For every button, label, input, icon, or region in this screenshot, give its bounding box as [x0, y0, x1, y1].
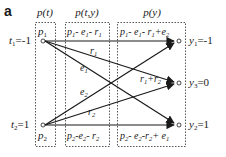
header-p-t: p(t) [36, 6, 53, 19]
edge-label-r2: r2 [88, 106, 96, 118]
panel-label: a [4, 3, 12, 19]
edge-label-e2: e2 [80, 86, 88, 98]
node-y3 [177, 81, 181, 85]
marginal-top: p1- e1- r1+e2 [119, 26, 170, 38]
node-t1 [41, 39, 45, 43]
p1-label: p1 [37, 25, 48, 39]
marginal-bottom: p2- e2-r2+ e1 [119, 130, 169, 142]
label-y2: y2=1 [188, 118, 209, 132]
label-y1: y1=-1 [188, 34, 213, 48]
edge-t2-y1 [45, 43, 174, 125]
node-t2 [41, 123, 45, 127]
node-y2 [177, 123, 181, 127]
header-p-ty: p(t,y) [74, 6, 99, 19]
joint-top: p1- e1- r1 [66, 26, 102, 38]
header-p-y: p(y) [142, 6, 161, 19]
joint-bottom: p2-e2- r2 [66, 130, 100, 142]
channel-diagram: a p(t) p(t,y) p(y) t1=-1 t2=1 p1 p2 [0, 0, 226, 157]
label-t2: t2=1 [11, 118, 29, 132]
marginal-middle: r1+r2 [140, 73, 162, 85]
label-t1: t1=-1 [9, 34, 31, 48]
edge-label-r1: r1 [90, 45, 97, 57]
node-y1 [177, 39, 181, 43]
edge-label-e1: e1 [80, 62, 88, 74]
label-y3: y3=0 [188, 76, 210, 90]
p2-label: p2 [37, 129, 48, 143]
